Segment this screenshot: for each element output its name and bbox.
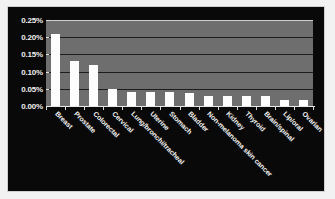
x-axis-labels: BreastProstateColorectalCervicalLung/bro… bbox=[46, 110, 313, 190]
bar bbox=[89, 65, 98, 106]
chart-screenshot: 0.25%0.20%0.15%0.10%0.05%0.00% BreastPro… bbox=[0, 0, 335, 199]
x-axis-category-label: Breast bbox=[54, 110, 74, 130]
bar bbox=[261, 96, 270, 106]
bar bbox=[299, 100, 308, 106]
bar bbox=[165, 92, 174, 106]
y-axis-tick-label: 0.05% bbox=[21, 84, 43, 93]
y-axis: 0.25%0.20%0.15%0.10%0.05%0.00% bbox=[8, 20, 43, 106]
bar bbox=[127, 92, 136, 106]
chart-canvas: 0.25%0.20%0.15%0.10%0.05%0.00% BreastPro… bbox=[8, 7, 324, 191]
x-axis-category-label: Ovarian bbox=[302, 110, 325, 133]
bar bbox=[108, 89, 117, 106]
y-axis-tick-label: 0.15% bbox=[21, 50, 43, 59]
bar-series bbox=[46, 20, 313, 106]
y-axis-tick-label: 0.10% bbox=[21, 67, 43, 76]
bar bbox=[204, 96, 213, 106]
bar bbox=[280, 100, 289, 106]
bar bbox=[242, 96, 251, 106]
y-axis-tick-label: 0.25% bbox=[21, 16, 43, 25]
bar bbox=[146, 92, 155, 106]
x-axis-tick-mark bbox=[313, 107, 314, 110]
chart-frame: 0.25%0.20%0.15%0.10%0.05%0.00% BreastPro… bbox=[7, 6, 325, 192]
bar bbox=[223, 96, 232, 106]
y-axis-tick-label: 0.20% bbox=[21, 33, 43, 42]
bar bbox=[51, 34, 60, 106]
bar bbox=[185, 93, 194, 106]
y-axis-tick-label: 0.00% bbox=[21, 102, 43, 111]
bar bbox=[70, 61, 79, 106]
